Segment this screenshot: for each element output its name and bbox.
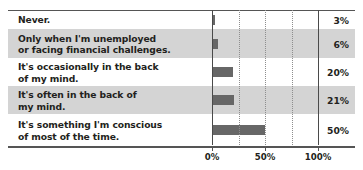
x-axis-line — [8, 147, 355, 148]
x-axis-tick — [265, 147, 266, 151]
row-value-label: 20% — [315, 67, 349, 78]
row-category-label: It's something I'm conscious of most of … — [18, 119, 208, 142]
x-axis-tick-label: 0% — [205, 152, 220, 162]
x-axis-tick-label: 100% — [305, 152, 332, 162]
x-axis-tick-label: 50% — [255, 152, 276, 162]
bar-segment — [212, 125, 265, 135]
row-value-label: 6% — [315, 38, 349, 49]
table-row: It's something I'm conscious of most of … — [8, 114, 355, 146]
table-row: Only when I'm unemployed or facing finan… — [8, 29, 355, 58]
x-axis-tick — [318, 147, 319, 151]
bar-segment — [212, 15, 215, 25]
row-category-label: It's occasionally in the back of my mind… — [18, 61, 208, 84]
bar-segment — [212, 39, 218, 49]
row-category-label: Only when I'm unemployed or facing finan… — [18, 32, 208, 55]
table-row: Never.3% — [8, 11, 355, 29]
bar-segment — [212, 67, 233, 77]
row-category-label: Never. — [18, 14, 208, 26]
row-category-label: It's often in the back of my mind. — [18, 89, 208, 112]
table-row: It's often in the back of my mind.21% — [8, 86, 355, 114]
table-row: It's occasionally in the back of my mind… — [8, 58, 355, 86]
row-value-label: 21% — [315, 95, 349, 106]
chart-rows-area: Never.3%Only when I'm unemployed or faci… — [8, 10, 355, 147]
row-value-label: 50% — [315, 125, 349, 136]
row-value-label: 3% — [315, 15, 349, 26]
survey-bar-chart: Never.3%Only when I'm unemployed or faci… — [0, 0, 363, 170]
x-axis-tick — [212, 147, 213, 151]
bar-segment — [212, 95, 234, 105]
